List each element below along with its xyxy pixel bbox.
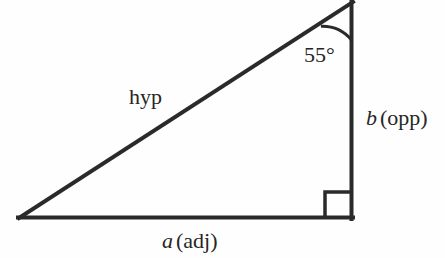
right-angle-marker (325, 192, 351, 217)
right-triangle-figure: hyp 55° a(adj) b(opp) (0, 0, 445, 258)
opposite-note-text: (opp) (380, 105, 428, 130)
angle-label-text: 55° (304, 42, 335, 67)
hypotenuse-label: hyp (129, 86, 162, 108)
triangle-drawing (0, 0, 445, 258)
opposite-variable-text: b (366, 105, 377, 130)
adjacent-side-label: a(adj) (162, 230, 218, 252)
adjacent-variable-text: a (162, 228, 173, 253)
adjacent-note-text: (adj) (176, 228, 218, 253)
hypotenuse-label-text: hyp (129, 84, 162, 109)
hypotenuse-line (19, 2, 353, 218)
opposite-side-label: b(opp) (366, 107, 428, 129)
angle-arc (321, 26, 352, 40)
angle-label: 55° (304, 44, 335, 66)
